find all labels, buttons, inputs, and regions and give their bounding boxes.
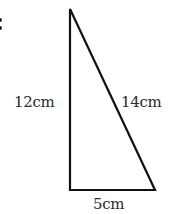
bottom-side-label: 5cm [93,197,124,212]
hypotenuse-label: 14cm [121,95,162,110]
diagram-stage: 12cm 14cm 5cm [0,0,174,214]
left-side-label: 12cm [14,95,55,110]
